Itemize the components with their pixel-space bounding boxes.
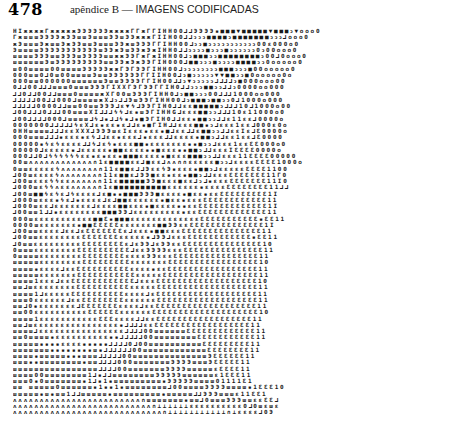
coded-image-grid: HIжжжжГжжжжжЭЭЭЭЭЭжжжжГГжГГIHH00⅃⅃ЭЭЭЭ▪■… [13,28,461,416]
running-head-title: IMAGENS CODIFICADAS [136,3,259,15]
running-head: apêndice B — IMAGENS CODIFICADAS [70,3,259,15]
page-header: 478 apêndice B — IMAGENS CODIFICADAS [8,0,259,20]
page-number: 478 [8,0,43,19]
glyph-row: ʌʌʌʌʌʌʌʌʌʌʌʌʌʌʌʌʌʌʌʌʌʌʌʌʌʌʌʌ∩⊥⊥⊥⊥⊥⊥⊥⊥⊥⊥⊥… [13,409,461,415]
running-head-prefix: apêndice B — [70,3,136,15]
